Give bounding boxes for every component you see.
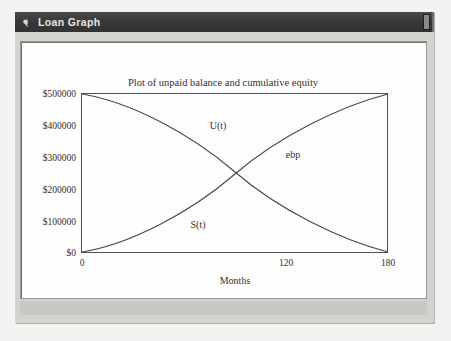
chart-title: Plot of unpaid balance and cumulative eq…: [128, 77, 319, 88]
x-tick-label-0: 0: [80, 258, 85, 268]
x-axis-label: Months: [220, 275, 251, 286]
x-tick-label-120: 120: [279, 258, 294, 268]
curve-label-s: S(t): [191, 219, 206, 231]
y-tick-label-400000: $400000: [43, 121, 77, 131]
loan-graph-chart: Plot of unpaid balance and cumulative eq…: [21, 42, 426, 298]
window-status-strip: [20, 301, 427, 315]
plot-frame: [82, 94, 388, 253]
window-title-bar[interactable]: Loan Graph: [15, 12, 434, 32]
x-tick-label-180: 180: [381, 258, 396, 268]
y-tick-label-300000: $300000: [43, 153, 77, 163]
window-controls-placeholder[interactable]: [423, 14, 430, 30]
curve-s-of-t: [82, 94, 388, 252]
window-title-text: Loan Graph: [38, 16, 100, 28]
chart-svg: Plot of unpaid balance and cumulative eq…: [21, 42, 426, 298]
y-tick-label-500000: $500000: [43, 89, 77, 99]
window-client-area: Plot of unpaid balance and cumulative eq…: [15, 32, 434, 323]
y-tick-label-100000: $100000: [43, 217, 77, 227]
application-window: Loan Graph Plot of unpaid balance and cu…: [15, 12, 434, 323]
annotation-label-ebp: ebp: [286, 149, 300, 160]
scanned-page-background: Loan Graph Plot of unpaid balance and cu…: [0, 0, 451, 341]
chart-panel: Plot of unpaid balance and cumulative eq…: [20, 41, 427, 299]
window-menu-icon[interactable]: [21, 17, 32, 28]
curve-u-of-t: [82, 94, 388, 252]
y-tick-label-200000: $200000: [43, 185, 77, 195]
curve-label-u: U(t): [210, 120, 227, 132]
y-tick-label-0: $0: [67, 248, 77, 258]
